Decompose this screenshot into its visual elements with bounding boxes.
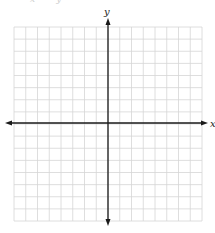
y-axis-label: y [103,6,110,17]
x-axis-right-arrow-icon [201,121,208,126]
x-axis-label: x [210,118,215,129]
coordinate-plane: x y [0,0,215,233]
y-axis [106,18,111,226]
y-axis-down-arrow-icon [106,219,111,226]
y-axis-up-arrow-icon [106,18,111,25]
x-axis [5,121,208,126]
x-axis-left-arrow-icon [5,121,12,126]
